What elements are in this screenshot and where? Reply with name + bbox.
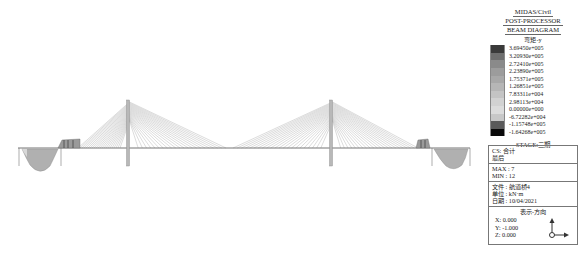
legend-value: 2.23890e+005 [505,68,544,75]
maxmin-section: MAX : 7 MIN : 12 [489,164,577,182]
legend-panel: MIDAS/Civil POST-PROCESSOR BEAM DIAGRAM … [488,8,578,149]
app-name: MIDAS/Civil [513,8,553,17]
legend-value: 1.26851e+005 [505,83,544,90]
legend-row: -1.64268e+005 [490,129,578,137]
legend-row: 7.83311e+004 [490,91,578,99]
color-scale: 3.69450e+0053.20930e+0052.72410e+0052.23… [490,45,578,136]
legend-value: 2.72410e+005 [505,61,544,68]
legend-header: MIDAS/Civil POST-PROCESSOR BEAM DIAGRAM [488,8,578,35]
legend-swatch [490,106,505,114]
view-section: 表示-方向 X: 0.000 Y: -1.000 Z: 0.000 [489,207,577,244]
legend-value: -1.15748e+005 [505,121,546,128]
left-anchor-block [58,139,80,148]
max-label: MAX : 7 [492,165,574,172]
cs-label: CS: 合计 [492,147,574,154]
legend-value: -6.72282e+004 [505,114,546,121]
legend-row: 1.26851e+005 [490,83,578,91]
view-title: 表示-方向 [492,208,574,215]
legend-swatch [490,83,505,91]
legend-row: 0.00000e+000 [490,106,578,114]
legend-value: 7.83311e+004 [505,91,543,98]
legend-row: 2.98113e+004 [490,98,578,106]
legend-row: -1.15748e+005 [490,121,578,129]
legend-row: 3.69450e+005 [490,45,578,53]
right-anchor-block [416,139,430,148]
diagram-name: BEAM DIAGRAM [505,26,561,35]
legend-swatch [490,121,505,129]
legend-value: -1.64268e+005 [505,129,546,136]
bridge-beam-diagram [0,0,485,253]
view-x: X: 0.000 [495,216,518,223]
cs-sub: 最后 [492,154,574,161]
result-type: 弯矩-y [488,36,578,43]
legend-swatch [490,68,505,76]
view-z: Z: 0.000 [495,231,518,238]
left-side-span-moment [19,148,61,171]
legend-value: 2.98113e+004 [505,99,543,106]
legend-row: 3.20930e+005 [490,53,578,61]
legend-row: 1.75371e+005 [490,76,578,84]
legend-swatch [490,114,505,122]
legend-swatch [490,45,505,53]
legend-row: 2.23890e+005 [490,68,578,76]
legend-value: 3.69450e+005 [505,45,544,52]
min-label: MIN : 12 [492,172,574,179]
view-y: Y: -1.000 [495,224,518,231]
legend-swatch [490,98,505,106]
legend-row: 2.72410e+005 [490,60,578,68]
axis-triad-icon [542,217,572,243]
unit-label: 单位 : kN·m [492,190,574,197]
towers [127,100,333,166]
legend-swatch [490,91,505,99]
legend-value: 0.00000e+000 [505,106,544,113]
module-name: POST-PROCESSOR [503,17,562,26]
file-section: 文件 : 航道桥4 单位 : kN·m 日期 : 10/04/2021 [489,182,577,207]
legend-swatch [490,129,505,137]
legend-value: 1.75371e+005 [505,76,544,83]
file-label: 文件 : 航道桥4 [492,183,574,190]
legend-swatch [490,76,505,84]
legend-value: 3.20930e+005 [505,53,544,60]
legend-swatch [490,60,505,68]
legend-row: -6.72282e+004 [490,114,578,122]
info-panel: CS: 合计 最后 MAX : 7 MIN : 12 文件 : 航道桥4 单位 … [488,145,578,245]
right-side-span-moment [432,148,470,169]
cs-section: CS: 合计 最后 [489,146,577,164]
legend-swatch [490,53,505,61]
date-label: 日期 : 10/04/2021 [492,197,574,204]
